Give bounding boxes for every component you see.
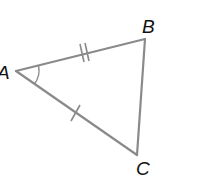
tick-mark-ac (71, 105, 80, 121)
tick-marks-ab (80, 43, 89, 62)
vertex-label-a: A (0, 62, 10, 83)
vertex-label-b: B (142, 16, 155, 37)
side-ab (16, 39, 145, 71)
triangle-diagram: A B C (0, 0, 208, 176)
angle-arc-a (35, 66, 40, 85)
vertex-label-c: C (136, 158, 150, 176)
side-bc (137, 39, 145, 155)
